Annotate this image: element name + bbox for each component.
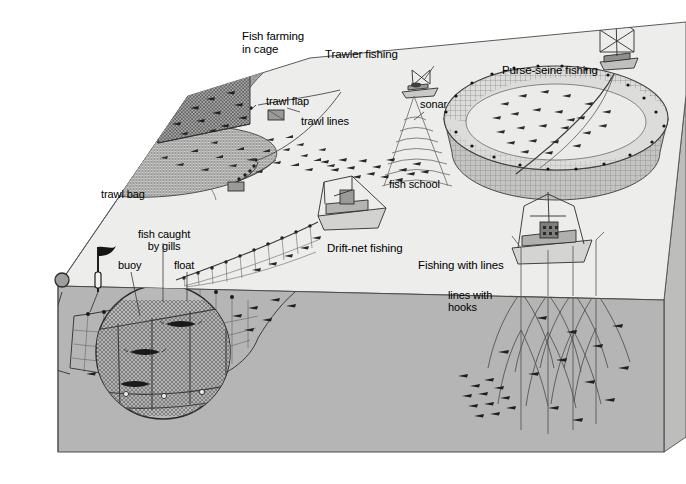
label-trawl-bag: trawl bag: [101, 188, 145, 200]
label-trawler-fishing: Trawler fishing: [325, 48, 398, 61]
label-trawl-lines: trawl lines: [301, 115, 349, 127]
label-fish-farming: Fish farmingin cage: [242, 30, 304, 55]
label-trawl-flap: trawl flap: [266, 95, 309, 107]
label-fish-school: fish school: [389, 178, 440, 190]
label-purse-seine-fishing: Purse-seine fishing: [502, 64, 598, 77]
fish-cage-shape: [118, 30, 250, 143]
label-fishing-with-lines: Fishing with lines: [418, 259, 504, 272]
label-fish-caught-by-gills: fish caughtby gills: [138, 228, 190, 252]
trawl-flap-shape: [268, 110, 284, 120]
label-buoy: buoy: [118, 259, 141, 271]
trawl-flap-shape-2: [228, 182, 244, 191]
surface-buoy-shape: [55, 273, 69, 287]
figure-canvas: Fish farmingin cage Trawler fishing Purs…: [0, 0, 686, 484]
label-sonar: sonar: [420, 98, 447, 110]
label-float: float: [174, 259, 194, 271]
purse-seine-net-shape: [444, 64, 669, 200]
label-lines-with-hooks: lines withhooks: [448, 289, 492, 313]
label-drift-net-fishing: Drift-net fishing: [327, 242, 403, 255]
